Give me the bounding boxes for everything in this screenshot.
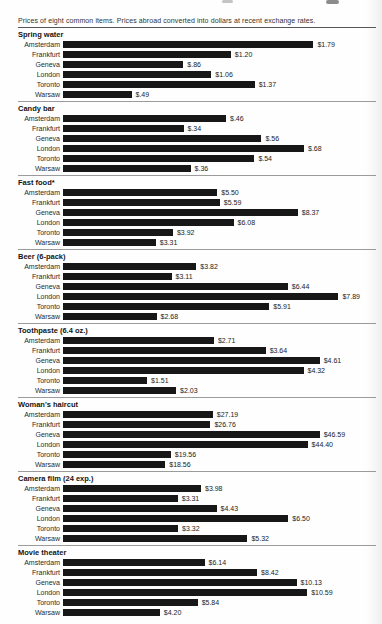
value-label: $3.64 <box>270 346 288 356</box>
price-bar <box>63 209 298 216</box>
group-rows: Amsterdam $3.98 Frankfurt $3.31 Geneva $… <box>18 484 376 544</box>
bar-track: $19.56 <box>63 450 376 460</box>
city-label: Frankfurt <box>18 494 63 504</box>
bar-track: $5.59 <box>63 198 376 208</box>
city-label: Frankfurt <box>18 198 63 208</box>
bar-track: $5.50 <box>63 188 376 198</box>
value-label: $3.92 <box>177 228 195 238</box>
cropped-headline-artifact <box>326 0 339 4</box>
value-label: $5.50 <box>221 188 239 198</box>
city-label: London <box>18 440 63 450</box>
price-bar <box>63 41 313 48</box>
bar-row: London $44.40 <box>18 440 376 450</box>
city-label: Amsterdam <box>18 188 63 198</box>
value-label: $1.06 <box>215 70 233 80</box>
price-comparison-chart: Spring water Amsterdam $1.79 Frankfurt $… <box>0 28 382 619</box>
city-label: Warsaw <box>18 164 63 174</box>
price-bar <box>63 535 247 542</box>
value-label: $3.31 <box>182 494 200 504</box>
group-rows: Amsterdam $1.79 Frankfurt $1.20 Geneva $… <box>18 40 376 100</box>
value-label: $5.91 <box>273 302 291 312</box>
city-label: Geneva <box>18 578 63 588</box>
bar-row: London $7.89 <box>18 292 376 302</box>
city-label: Warsaw <box>18 386 63 396</box>
price-bar <box>63 421 210 428</box>
city-label: London <box>18 218 63 228</box>
value-label: $4.20 <box>164 608 182 618</box>
price-bar <box>63 229 173 236</box>
value-label: $.56 <box>265 134 279 144</box>
bar-row: Toronto $1.51 <box>18 376 376 386</box>
city-label: London <box>18 144 63 154</box>
bar-track: $.56 <box>63 134 376 144</box>
city-label: Warsaw <box>18 534 63 544</box>
bar-row: Frankfurt $1.20 <box>18 50 376 60</box>
price-bar <box>63 145 304 152</box>
chart-group: Movie theater Amsterdam $6.14 Frankfurt … <box>18 545 376 619</box>
value-label: $6.50 <box>292 514 310 524</box>
chart-group: Toothpaste (6.4 oz.) Amsterdam $2.71 Fra… <box>18 323 376 397</box>
group-title: Beer (6-pack) <box>18 252 376 261</box>
group-rows: Amsterdam $2.71 Frankfurt $3.64 Geneva $… <box>18 336 376 396</box>
value-label: $1.37 <box>259 80 277 90</box>
chart-group: Fast food* Amsterdam $5.50 Frankfurt $5.… <box>18 175 376 249</box>
value-label: $1.79 <box>317 40 335 50</box>
price-bar <box>63 219 234 226</box>
value-label: $8.42 <box>261 568 279 578</box>
value-label: $.34 <box>188 124 202 134</box>
group-title: Camera film (24 exp.) <box>18 474 376 483</box>
city-label: London <box>18 514 63 524</box>
price-bar <box>63 135 261 142</box>
bar-row: Amsterdam $1.79 <box>18 40 376 50</box>
value-label: $.46 <box>230 114 244 124</box>
value-label: $26.76 <box>214 420 235 430</box>
bar-track: $8.37 <box>63 208 376 218</box>
price-bar <box>63 165 191 172</box>
group-rows: Amsterdam $6.14 Frankfurt $8.42 Geneva $… <box>18 558 376 618</box>
bar-track: $8.42 <box>63 568 376 578</box>
bar-row: Warsaw $5.32 <box>18 534 376 544</box>
price-bar <box>63 155 254 162</box>
bar-track: $18.56 <box>63 460 376 470</box>
price-bar <box>63 61 183 68</box>
bar-track: $10.59 <box>63 588 376 598</box>
city-label: Geneva <box>18 282 63 292</box>
value-label: $27.19 <box>217 410 238 420</box>
bar-row: Amsterdam $3.82 <box>18 262 376 272</box>
bar-track: $46.59 <box>63 430 376 440</box>
price-bar <box>63 283 288 290</box>
value-label: $3.82 <box>200 262 218 272</box>
bar-row: Geneva $4.61 <box>18 356 376 366</box>
bar-track: $26.76 <box>63 420 376 430</box>
bar-track: $.54 <box>63 154 376 164</box>
bar-track: $1.79 <box>63 40 376 50</box>
city-label: Warsaw <box>18 312 63 322</box>
bar-row: Toronto $5.91 <box>18 302 376 312</box>
price-bar <box>63 71 211 78</box>
bar-row: Frankfurt $26.76 <box>18 420 376 430</box>
bar-track: $3.31 <box>63 494 376 504</box>
city-label: Geneva <box>18 208 63 218</box>
bar-track: $4.43 <box>63 504 376 514</box>
group-title: Spring water <box>18 30 376 39</box>
city-label: Frankfurt <box>18 124 63 134</box>
chart-group: Candy bar Amsterdam $.46 Frankfurt $.34 … <box>18 101 376 175</box>
price-bar <box>63 569 257 576</box>
city-label: London <box>18 588 63 598</box>
value-label: $44.40 <box>312 440 333 450</box>
bar-row: Warsaw $2.03 <box>18 386 376 396</box>
price-bar <box>63 559 205 566</box>
price-bar <box>63 199 220 206</box>
bar-row: Toronto $.54 <box>18 154 376 164</box>
city-label: Warsaw <box>18 238 63 248</box>
city-label: Toronto <box>18 154 63 164</box>
value-label: $1.20 <box>235 50 253 60</box>
city-label: Toronto <box>18 450 63 460</box>
chart-group: Spring water Amsterdam $1.79 Frankfurt $… <box>18 28 376 101</box>
bar-row: Toronto $1.37 <box>18 80 376 90</box>
bar-row: London $.68 <box>18 144 376 154</box>
price-bar <box>63 525 178 532</box>
group-title: Movie theater <box>18 548 376 557</box>
city-label: Frankfurt <box>18 272 63 282</box>
value-label: $5.32 <box>251 534 269 544</box>
